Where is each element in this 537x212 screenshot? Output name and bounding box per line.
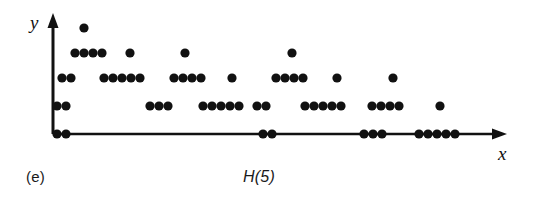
data-point — [227, 73, 236, 82]
x-axis-label: x — [497, 143, 507, 164]
data-point — [52, 101, 61, 110]
data-point — [267, 129, 276, 138]
data-point — [57, 73, 66, 82]
data-point — [196, 73, 205, 82]
data-point — [99, 73, 108, 82]
data-dot-layer — [52, 23, 459, 138]
data-point — [180, 48, 189, 57]
data-point — [388, 73, 397, 82]
data-point — [423, 129, 432, 138]
data-point — [97, 48, 106, 57]
data-point — [287, 48, 296, 57]
data-point — [336, 101, 345, 110]
data-point — [169, 73, 178, 82]
data-point — [135, 73, 144, 82]
y-axis-arrowhead — [48, 13, 59, 28]
data-point — [414, 129, 423, 138]
data-point — [394, 101, 403, 110]
data-point — [377, 129, 386, 138]
data-point — [79, 23, 88, 32]
data-point — [376, 101, 385, 110]
data-point — [318, 101, 327, 110]
data-point — [207, 101, 216, 110]
data-point — [117, 73, 126, 82]
data-point — [70, 48, 79, 57]
data-point — [198, 101, 207, 110]
data-point — [441, 129, 450, 138]
data-point — [79, 48, 88, 57]
data-point — [52, 129, 61, 138]
data-point — [145, 101, 154, 110]
data-point — [261, 101, 270, 110]
data-point — [125, 48, 134, 57]
data-point — [225, 101, 234, 110]
data-point — [163, 101, 172, 110]
data-point — [300, 101, 309, 110]
data-point — [187, 73, 196, 82]
data-point — [450, 129, 459, 138]
data-point — [289, 73, 298, 82]
data-point — [61, 101, 70, 110]
data-point — [332, 73, 341, 82]
data-point — [234, 101, 243, 110]
data-point — [61, 129, 70, 138]
data-point — [252, 101, 261, 110]
data-point — [126, 73, 135, 82]
data-point — [309, 101, 318, 110]
y-axis-label: y — [28, 12, 39, 33]
data-point — [368, 129, 377, 138]
data-point — [88, 48, 97, 57]
data-point — [435, 101, 444, 110]
data-point — [178, 73, 187, 82]
figure-caption: (e) — [26, 168, 45, 185]
data-point — [280, 73, 289, 82]
data-point — [258, 129, 267, 138]
data-point — [154, 101, 163, 110]
data-point — [327, 101, 336, 110]
data-point — [108, 73, 117, 82]
data-point — [66, 73, 75, 82]
data-point — [298, 73, 307, 82]
figure-title: H(5) — [243, 168, 275, 186]
data-point — [432, 129, 441, 138]
x-axis-arrowhead — [492, 129, 507, 140]
data-point — [359, 129, 368, 138]
data-point — [385, 101, 394, 110]
data-point — [271, 73, 280, 82]
scatter-figure: y x (e) H(5) — [0, 0, 537, 212]
data-point — [216, 101, 225, 110]
data-point — [367, 101, 376, 110]
